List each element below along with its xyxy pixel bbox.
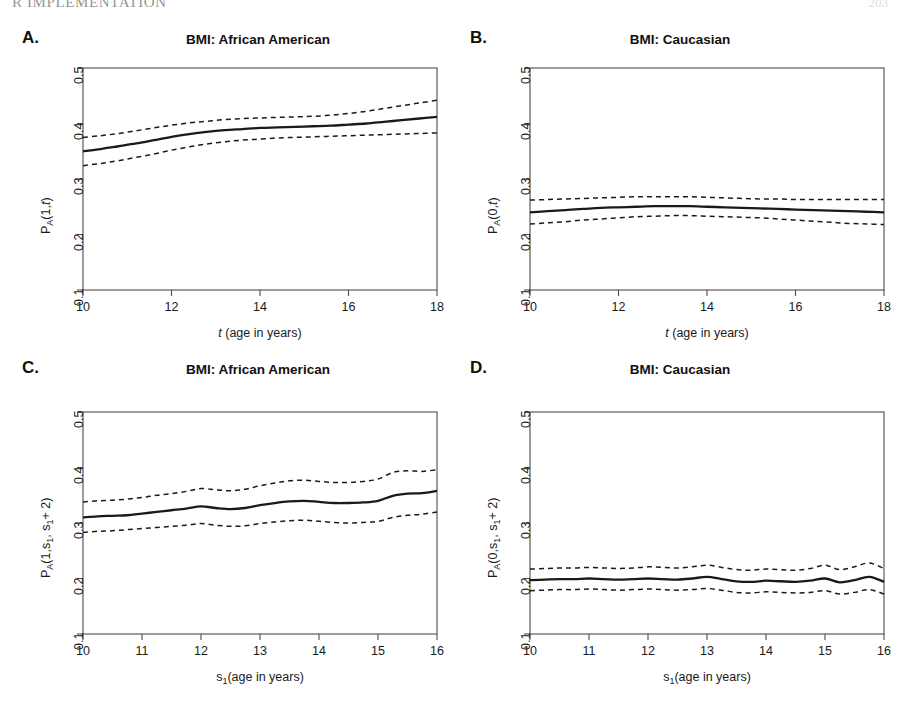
x-axis-title-d: s1(age in years) [557,670,857,686]
plot-frame-c [83,412,437,634]
y-tick-label: 0.3 [519,522,533,539]
x-tick-label: 14 [294,644,344,658]
x-tick-label: 15 [353,644,403,658]
x-tick-label: 11 [564,644,614,658]
x-tick-label: 14 [741,644,791,658]
y-tick-label: 0.4 [72,466,86,483]
y-tick-label: 0.5 [519,411,533,428]
panel-d: D.BMI: Caucasian101112131415160.10.20.30… [452,0,904,718]
x-tick-label: 12 [623,644,673,658]
plot-area-d [452,0,904,718]
series-estimate [530,577,884,583]
x-tick-label: 13 [235,644,285,658]
x-tick-label: 16 [859,644,904,658]
x-tick-label: 12 [176,644,226,658]
x-tick-label: 15 [800,644,850,658]
plot-frame-d [530,412,884,634]
x-tick-label: 11 [117,644,167,658]
y-tick-label: 0.4 [519,466,533,483]
series-estimate [83,491,437,518]
y-tick-label: 0.1 [72,633,86,650]
x-tick-label: 13 [682,644,732,658]
y-tick-label: 0.2 [72,577,86,594]
series-upper-confidence-band [83,470,437,502]
y-tick-label: 0.3 [72,522,86,539]
y-axis-title-d: PA(0,s1, s1+ 2) [486,498,502,578]
series-lower-confidence-band [530,588,884,594]
series-upper-confidence-band [530,563,884,570]
x-axis-title-c: s1(age in years) [110,670,410,686]
y-tick-label: 0.2 [519,577,533,594]
y-tick-label: 0.1 [519,633,533,650]
y-tick-label: 0.5 [72,411,86,428]
y-axis-title-c: PA(1,s1, s1+ 2) [39,498,55,578]
